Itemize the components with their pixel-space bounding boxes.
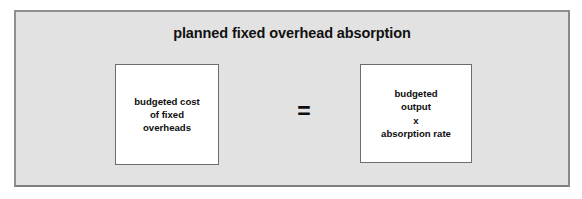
equation-row: budgeted cost of fixed overheads = budge… xyxy=(16,64,568,165)
right-term-label: budgeted output x absorption rate xyxy=(377,87,455,140)
diagram-panel: planned fixed overhead absorption budget… xyxy=(14,10,570,187)
equals-sign-icon: = xyxy=(284,100,324,123)
left-term-box: budgeted cost of fixed overheads xyxy=(115,64,219,165)
right-term-box: budgeted output x absorption rate xyxy=(360,64,472,163)
diagram-title: planned fixed overhead absorption xyxy=(16,25,568,41)
left-term-label: budgeted cost of fixed overheads xyxy=(130,95,204,135)
